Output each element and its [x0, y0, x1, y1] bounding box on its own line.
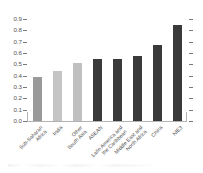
- y-axis-tick-mark: [23, 64, 27, 65]
- y-axis-tick-mark: [23, 19, 27, 20]
- bar: [133, 56, 142, 121]
- x-axis-baseline: [27, 121, 187, 122]
- bar: [73, 63, 82, 121]
- y-axis-tick-mark-right: [189, 53, 193, 54]
- bar-series: [27, 14, 187, 121]
- y-axis-tick-mark-right: [189, 121, 193, 122]
- y-axis-tick-mark: [23, 76, 27, 77]
- y-axis-tick-mark: [23, 98, 27, 99]
- y-axis-tick-mark-right: [189, 76, 193, 77]
- y-axis-tick-mark-right: [189, 64, 193, 65]
- y-axis-tick-mark-right: [189, 110, 193, 111]
- y-axis-tick-label: 0.8: [13, 26, 22, 34]
- y-axis-tick-label: 0.1: [13, 106, 22, 114]
- y-axis-tick-mark: [23, 30, 27, 31]
- bar: [33, 77, 42, 121]
- y-axis-tick-mark: [23, 53, 27, 54]
- y-axis-tick-mark: [23, 110, 27, 111]
- y-axis-tick-label: 0.3: [13, 83, 22, 91]
- y-axis-tick-mark-right: [189, 87, 193, 88]
- y-axis-tick-label: 0.7: [13, 38, 22, 46]
- y-axis-tick-mark-right: [189, 42, 193, 43]
- y-axis-tick-label: 0.9: [13, 15, 22, 23]
- y-axis-tick-label: 0.5: [13, 60, 22, 68]
- footer-artifact: [8, 164, 158, 167]
- y-axis-tick-label: 0.6: [13, 49, 22, 57]
- y-axis-tick-label: 0.4: [13, 72, 22, 80]
- y-axis-tick-mark-right: [189, 98, 193, 99]
- y-axis-tick-mark-right: [189, 30, 193, 31]
- bar: [173, 25, 182, 121]
- bar: [113, 59, 122, 121]
- y-axis-tick-mark: [23, 87, 27, 88]
- bar: [93, 59, 102, 121]
- y-axis-tick-mark: [23, 121, 27, 122]
- y-axis-tick-mark-right: [189, 19, 193, 20]
- y-axis-tick-label: 0.2: [13, 94, 22, 102]
- bar-chart: 0.00.10.20.30.40.50.60.70.80.9 Sub-Sahar…: [0, 0, 203, 173]
- bar: [153, 45, 162, 121]
- bar: [53, 71, 62, 121]
- y-axis-tick-mark: [23, 42, 27, 43]
